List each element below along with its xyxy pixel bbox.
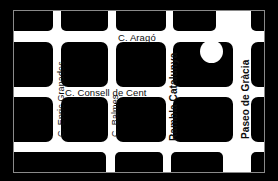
street-label-paseo-de-gracia: Paseo de Gràcia: [241, 60, 251, 139]
city-block: [13, 42, 53, 87]
city-block: [13, 152, 106, 173]
city-block: [171, 152, 223, 173]
street-label-rambla-catalunya: Rambla Catalunya: [169, 53, 179, 141]
city-block: [116, 10, 166, 31]
city-block: [13, 97, 53, 142]
city-block: [116, 97, 166, 142]
city-block: [251, 97, 265, 142]
city-block: [251, 152, 265, 173]
placa-circle-marker: [200, 40, 223, 63]
street-map: C. Aragó C. Consell de Cent C. Enric Gra…: [0, 0, 278, 181]
city-block: [61, 10, 108, 31]
city-block: [251, 42, 265, 87]
city-block: [173, 10, 216, 31]
city-block: [61, 42, 108, 87]
city-block: [173, 97, 233, 142]
city-block: [116, 42, 166, 87]
street-label-consell-de-cent: C. Consell de Cent: [65, 88, 147, 98]
street-label-enric-granados: C. Enric Granados: [57, 61, 66, 137]
street-label-balmes: C. Balmes: [111, 95, 120, 137]
city-block: [115, 152, 163, 173]
city-block: [251, 10, 265, 31]
map-frame: C. Aragó C. Consell de Cent C. Enric Gra…: [13, 10, 265, 173]
street-label-arago: C. Aragó: [118, 33, 156, 43]
city-block: [13, 10, 53, 31]
city-block: [61, 97, 108, 142]
